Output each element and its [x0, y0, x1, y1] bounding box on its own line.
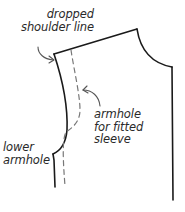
label-dropped-shoulder-line1: dropped [18, 8, 94, 21]
label-lower-armhole-line2: armhole [3, 154, 50, 167]
diagram-canvas: dropped shoulder line armhole for fitted… [0, 0, 185, 212]
label-fitted-armhole-line3: sleeve [94, 133, 143, 146]
neckline [137, 29, 172, 67]
arrow-dropped-shoulder [38, 47, 54, 63]
dropped-shoulder-armhole [53, 54, 67, 154]
label-lower-armhole: lower armhole [3, 141, 50, 166]
label-fitted-armhole: armhole for fitted sleeve [94, 108, 143, 146]
fitted-armhole-dashed [63, 50, 80, 186]
lower-armhole-line [53, 154, 55, 187]
label-lower-armhole-line1: lower [3, 141, 50, 154]
arrow-fitted-armhole [83, 86, 100, 106]
label-fitted-armhole-line1: armhole [94, 108, 143, 121]
label-dropped-shoulder-line2: shoulder line [18, 21, 94, 34]
center-front-line [172, 67, 173, 200]
label-dropped-shoulder: dropped shoulder line [18, 8, 94, 33]
